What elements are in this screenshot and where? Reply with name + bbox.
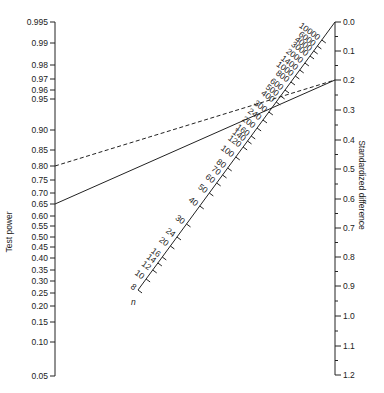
tick bbox=[291, 82, 295, 85]
tick-label: 0.60 bbox=[31, 211, 48, 221]
tick-label: 0.0 bbox=[343, 17, 355, 27]
tick-label: 0.45 bbox=[31, 242, 48, 252]
tick bbox=[251, 136, 255, 139]
dashed-line bbox=[55, 80, 335, 166]
tick-label: 0.98 bbox=[31, 60, 48, 70]
tick-label: 0.9 bbox=[343, 281, 355, 291]
tick bbox=[305, 63, 309, 66]
tick-label: 0.50 bbox=[31, 232, 48, 242]
tick bbox=[187, 224, 191, 227]
tick bbox=[162, 257, 166, 260]
tick-label: 0.6 bbox=[343, 194, 355, 204]
tick-label: 0.70 bbox=[31, 188, 48, 198]
tick-label: 0.1 bbox=[343, 46, 355, 56]
tick-label: 0.90 bbox=[31, 125, 48, 135]
sample-size-axis: 1000060004000300020001400100080060050040… bbox=[129, 20, 335, 293]
tick-label: 0.3 bbox=[343, 105, 355, 115]
tick bbox=[322, 40, 326, 43]
tick bbox=[217, 183, 221, 186]
standardized-difference-label: Standardized difference bbox=[357, 140, 367, 230]
tick bbox=[158, 263, 162, 266]
tick-label: 0.97 bbox=[31, 74, 48, 84]
tick-label: 0.95 bbox=[31, 94, 48, 104]
tick bbox=[310, 56, 314, 59]
tick-label: 0.5 bbox=[343, 164, 355, 174]
tick-label: 0.4 bbox=[343, 135, 355, 145]
tick-label: 0.05 bbox=[31, 371, 48, 381]
tick bbox=[170, 246, 174, 249]
tick bbox=[153, 270, 157, 273]
tick-label: 0.30 bbox=[31, 276, 48, 286]
tick-label: 0.20 bbox=[31, 301, 48, 311]
tick-label: 0.10 bbox=[31, 337, 48, 347]
test-power-label: Test power bbox=[4, 211, 14, 252]
tick-label: 0.2 bbox=[343, 75, 355, 85]
tick bbox=[269, 112, 273, 115]
tick bbox=[228, 168, 232, 171]
tick bbox=[248, 141, 252, 144]
tick-label: 0.55 bbox=[31, 221, 48, 231]
tick-label: 0.8 bbox=[343, 252, 355, 262]
tick bbox=[317, 46, 321, 49]
tick-label: 40 bbox=[187, 195, 201, 209]
tick bbox=[177, 237, 181, 240]
tick bbox=[263, 120, 267, 123]
axis-line bbox=[138, 22, 335, 290]
solid-line bbox=[55, 80, 335, 204]
tick-label: 1.2 bbox=[343, 370, 355, 380]
tick bbox=[138, 290, 142, 293]
tick bbox=[257, 128, 261, 131]
tick bbox=[243, 147, 247, 150]
tick bbox=[285, 90, 289, 93]
tick-label: 1.0 bbox=[343, 311, 355, 321]
tick-label: 0.75 bbox=[31, 175, 48, 185]
tick bbox=[223, 175, 227, 178]
tick bbox=[314, 51, 318, 54]
tick bbox=[209, 193, 213, 196]
tick-label: 0.99 bbox=[31, 38, 48, 48]
tick bbox=[300, 70, 304, 73]
reading-lines bbox=[55, 80, 335, 204]
tick bbox=[236, 157, 240, 160]
tick-label: 50 bbox=[196, 182, 210, 196]
tick-label: 0.80 bbox=[31, 161, 48, 171]
n-axis-label: n bbox=[131, 297, 136, 307]
tick-label: 0.7 bbox=[343, 223, 355, 233]
tick-label: 30 bbox=[174, 213, 188, 227]
tick-label: 0.85 bbox=[31, 145, 48, 155]
tick-label: 0.995 bbox=[27, 17, 49, 27]
test-power-axis: 0.9950.990.980.970.960.950.900.850.800.7… bbox=[27, 17, 55, 381]
tick-label: 1.1 bbox=[343, 341, 355, 351]
standardized-difference-axis: 0.00.10.20.30.40.50.60.70.80.91.01.11.2 bbox=[335, 17, 355, 380]
tick-label: 0.40 bbox=[31, 253, 48, 263]
tick-label: 0.25 bbox=[31, 288, 48, 298]
tick-label: 0.65 bbox=[31, 199, 48, 209]
tick-label: 8 bbox=[129, 281, 139, 292]
tick bbox=[200, 206, 204, 209]
tick-label: 0.35 bbox=[31, 265, 48, 275]
tick bbox=[146, 279, 150, 282]
tick bbox=[295, 76, 299, 79]
tick-label: 0.15 bbox=[31, 317, 48, 327]
nomogram: 0.9950.990.980.970.960.950.900.850.800.7… bbox=[0, 0, 384, 393]
